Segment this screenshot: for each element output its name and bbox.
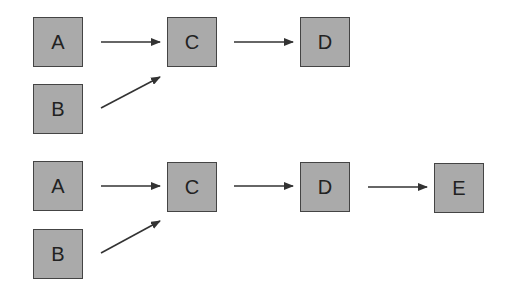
node-c-1: C: [167, 17, 217, 67]
edge-b-c-2: [101, 221, 160, 253]
node-a-2: A: [33, 161, 83, 211]
node-d-2: D: [300, 162, 350, 212]
edge-b-c-1: [101, 77, 160, 108]
node-c-2: C: [167, 162, 217, 212]
node-d-1: D: [300, 17, 350, 67]
node-e-2: E: [434, 163, 484, 213]
node-b-2: B: [33, 229, 83, 279]
node-a-1: A: [33, 17, 83, 67]
node-b-1: B: [33, 84, 83, 134]
